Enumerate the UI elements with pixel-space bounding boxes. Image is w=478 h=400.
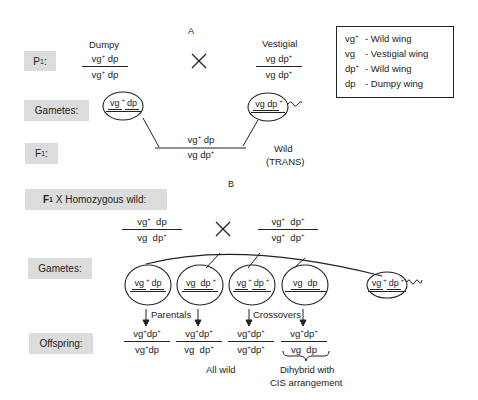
vestigial-title: Vestigial xyxy=(262,38,297,49)
p1-sub: 1 xyxy=(40,58,44,65)
parent-right-b: vg+ dp+ vg+ dp+ xyxy=(258,216,318,243)
section-a-label: A xyxy=(188,26,194,36)
legend-row: vg- Vestigial wing xyxy=(345,48,428,59)
all-wild-label: All wild xyxy=(206,364,236,375)
offspring-1: vg+dp+ vg+dp xyxy=(124,328,170,355)
gametes-label-b: Gametes: xyxy=(28,258,92,279)
gamete-b-3: vg+dp+ xyxy=(232,278,272,292)
parent-left-b: vg+ dp vg dp+ xyxy=(122,216,182,243)
f1-arrangement: (TRANS) xyxy=(266,156,305,167)
dumpy-genotype: vg+ dp vg+ dp xyxy=(82,53,128,80)
p1-text: P xyxy=(33,56,40,67)
offspring-3: vg+dp+ vg+dp+ xyxy=(228,328,274,355)
f1-label: F1: xyxy=(25,143,58,164)
offspring-4: vg+dp+ vg dp xyxy=(281,328,327,355)
vestigial-genotype: vg dp+ vg dp+ xyxy=(256,53,302,80)
offspring-label: Offspring: xyxy=(29,333,93,354)
dihybrid-line1: Dihybrid with xyxy=(280,364,334,375)
gamete-left-a: vg+dp xyxy=(106,98,140,112)
gamete-b-1: vg+dp xyxy=(128,278,168,292)
dihybrid-line2: CIS arrangement xyxy=(270,377,342,388)
gamete-b-2: vg dp+ xyxy=(180,278,220,292)
gametes-label-a: Gametes: xyxy=(24,100,89,121)
f1-sub: 1 xyxy=(41,150,45,157)
wild-gamete: vg+dp+ xyxy=(367,278,407,292)
legend-row: dp- Dumpy wing xyxy=(345,78,423,89)
legend-row: dp+- Wild wing xyxy=(345,63,411,74)
cross-symbol-b xyxy=(216,222,230,236)
legend-row: vg+- Wild wing xyxy=(345,33,411,44)
cross-label-b: F1 X Homozygous wild: xyxy=(25,189,167,210)
f1-phenotype: Wild xyxy=(274,143,292,154)
dumpy-title: Dumpy xyxy=(89,39,119,50)
cross-symbol-a xyxy=(192,54,206,68)
legend-box: vg+- Wild wing vg- Vestigial wing dp+- W… xyxy=(336,26,454,98)
crossovers-label: Crossovers xyxy=(253,309,301,320)
parentals-label: Parentals xyxy=(151,309,191,320)
sperm-tail-icon xyxy=(407,280,422,284)
gamete-b-4: vg dp xyxy=(285,278,325,292)
f1-genotype: vg+ dp vg dp+ xyxy=(176,134,226,160)
offspring-2: vg+dp+ vg dp+ xyxy=(176,328,222,355)
sperm-tail-icon xyxy=(288,102,302,106)
p1-label: P1: xyxy=(24,51,56,71)
section-b-label: B xyxy=(228,179,234,189)
gamete-right-a: vg dp+ xyxy=(250,99,286,113)
